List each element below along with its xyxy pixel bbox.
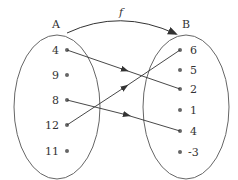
mapping-line-8-to-4 xyxy=(126,115,180,131)
codomain-set-ellipse xyxy=(143,35,229,179)
codomain-element: 1 xyxy=(190,104,197,117)
mapping-arrow-12-to-6 xyxy=(67,87,125,125)
codomain-dot xyxy=(178,68,182,72)
codomain-elements: 6 5 2 1 4 -3 xyxy=(178,44,199,159)
codomain-dot xyxy=(178,150,182,154)
codomain-element: -3 xyxy=(188,146,199,159)
codomain-element: 5 xyxy=(190,64,197,77)
codomain-element: 6 xyxy=(190,44,197,57)
mapping-arrow-4-to-2 xyxy=(67,50,125,70)
mapping-diagram: A B f 4 9 8 12 11 6 5 2 1 xyxy=(0,0,238,180)
mapping-arrow-8-to-4 xyxy=(67,100,127,115)
domain-element: 11 xyxy=(45,145,59,158)
mapping-arrows xyxy=(67,50,180,131)
mapping-line-12-to-6 xyxy=(124,50,180,88)
codomain-label: B xyxy=(182,18,190,31)
function-arrow xyxy=(67,21,176,34)
domain-dot xyxy=(65,149,69,153)
codomain-element: 4 xyxy=(190,125,197,138)
codomain-dot xyxy=(178,108,182,112)
domain-element: 12 xyxy=(45,119,59,132)
domain-element: 4 xyxy=(52,44,59,57)
domain-elements: 4 9 8 12 11 xyxy=(45,44,69,158)
diagram-canvas: A B f 4 9 8 12 11 6 5 2 1 xyxy=(0,0,238,180)
domain-element: 9 xyxy=(52,69,59,82)
domain-label: A xyxy=(51,18,61,31)
mapping-line-4-to-2 xyxy=(124,70,180,89)
codomain-element: 2 xyxy=(190,83,197,96)
domain-element: 8 xyxy=(52,94,59,107)
domain-dot xyxy=(65,73,69,77)
function-label: f xyxy=(118,6,125,19)
